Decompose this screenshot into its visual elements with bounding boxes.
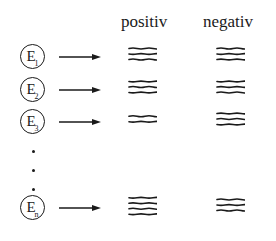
sample-subscript: n	[35, 210, 39, 219]
sample-row: E1	[0, 44, 276, 74]
sample-row: E3	[0, 109, 276, 139]
sample-subscript: 3	[35, 124, 39, 133]
header-positive: positiv	[121, 12, 167, 32]
arrow-right-icon	[59, 54, 101, 60]
arrow-right-icon	[59, 119, 101, 125]
sample-circle: En	[20, 195, 45, 220]
negative-bands	[215, 42, 245, 66]
sample-row: E2	[0, 77, 276, 107]
sample-circle: E2	[20, 77, 45, 102]
arrow-right-icon	[59, 87, 101, 93]
header-negative: negativ	[203, 12, 253, 32]
ellipsis-dot	[32, 188, 35, 191]
sample-circle: E1	[20, 44, 45, 69]
negative-bands	[215, 193, 245, 217]
positive-bands	[127, 193, 157, 219]
sample-row: En	[0, 195, 276, 225]
positive-bands	[127, 75, 157, 99]
negative-bands	[215, 107, 245, 131]
arrow-right-icon	[59, 205, 101, 211]
positive-bands	[127, 42, 157, 66]
ellipsis-dot	[32, 169, 35, 172]
ellipsis-dot	[32, 150, 35, 153]
sample-circle: E3	[20, 109, 45, 134]
sample-subscript: 2	[35, 92, 39, 101]
positive-bands	[127, 107, 157, 131]
negative-bands	[215, 75, 245, 99]
sample-subscript: 1	[35, 59, 39, 68]
